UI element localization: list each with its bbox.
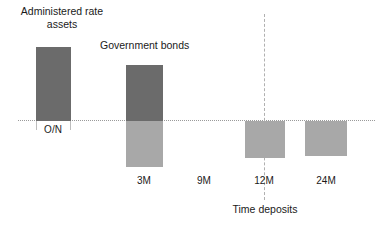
annotation-administered-rate-assets: Administered rate assets xyxy=(0,5,124,31)
tick-label-24m: 24M xyxy=(302,175,350,187)
bar-24m-negative xyxy=(305,121,347,156)
bar-3m-positive xyxy=(126,65,163,121)
tick-label-12m: 12M xyxy=(240,175,288,187)
vertical-divider-line xyxy=(264,14,265,200)
bar-on-positive xyxy=(36,47,71,121)
tick-label-on: O/N xyxy=(27,124,79,136)
annotation-government-bonds: Government bonds xyxy=(100,39,200,52)
tick-label-9m: 9M xyxy=(180,175,228,187)
bar-chart: Administered rate assets Government bond… xyxy=(0,0,384,227)
bar-3m-negative xyxy=(126,121,163,167)
tick-label-3m: 3M xyxy=(120,175,168,187)
annotation-time-deposits: Time deposits xyxy=(215,203,315,216)
bar-12m-negative xyxy=(245,121,285,158)
